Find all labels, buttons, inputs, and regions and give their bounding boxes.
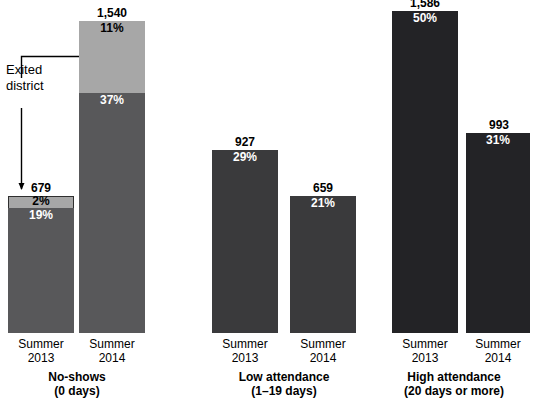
group-caption-line-1: Low attendance bbox=[195, 370, 373, 384]
bar-segment-label: 29% bbox=[212, 151, 278, 164]
axis-tick-noshows-2014: Summer 2014 bbox=[75, 337, 149, 365]
bar-segment-enrolled[interactable]: 37% bbox=[79, 93, 145, 333]
group-caption-line-1: No-shows bbox=[0, 370, 154, 384]
bar-segment-enrolled[interactable]: 19% bbox=[8, 208, 74, 333]
bar-segment-label: 37% bbox=[79, 94, 145, 107]
axis-tick-low-attendance-2013: Summer 2013 bbox=[208, 337, 282, 365]
tick-line-1: Summer bbox=[208, 337, 282, 351]
tick-line-2: 2014 bbox=[75, 351, 149, 365]
bar-segment-enrolled[interactable]: 50% bbox=[392, 11, 458, 333]
tick-line-2: 2013 bbox=[208, 351, 282, 365]
axis-tick-high-attendance-2014: Summer 2014 bbox=[461, 337, 535, 365]
bar-low-attendance-summer-2014[interactable]: 21% bbox=[290, 196, 356, 333]
bar-segment-label: 21% bbox=[290, 197, 356, 210]
tick-line-2: 2013 bbox=[4, 351, 78, 365]
bar-noshows-summer-2014[interactable]: 11% 37% bbox=[79, 21, 145, 333]
tick-line-1: Summer bbox=[388, 337, 462, 351]
tick-line-1: Summer bbox=[286, 337, 360, 351]
bar-segment-exited[interactable]: 11% bbox=[79, 21, 145, 93]
annotation-line-2: district bbox=[6, 78, 76, 94]
bar-segment-label: 31% bbox=[466, 134, 530, 147]
bar-segment-enrolled[interactable]: 29% bbox=[212, 150, 278, 333]
bar-low-attendance-summer-2013[interactable]: 29% bbox=[212, 150, 278, 333]
bar-high-attendance-summer-2014[interactable]: 31% bbox=[466, 133, 530, 333]
bar-segment-label: 11% bbox=[79, 22, 145, 35]
bar-total-label: 659 bbox=[290, 182, 356, 195]
bar-segment-exited[interactable]: 2% bbox=[8, 196, 74, 208]
bar-high-attendance-summer-2013[interactable]: 50% bbox=[392, 11, 458, 333]
tick-line-1: Summer bbox=[75, 337, 149, 351]
bar-segment-label: 19% bbox=[8, 209, 74, 222]
group-caption-line-2: (20 days or more) bbox=[372, 384, 536, 398]
bar-segment-enrolled[interactable]: 31% bbox=[466, 133, 530, 333]
group-caption-low-attendance: Low attendance (1–19 days) bbox=[195, 370, 373, 398]
group-caption-line-2: (0 days) bbox=[0, 384, 154, 398]
group-caption-no-shows: No-shows (0 days) bbox=[0, 370, 154, 398]
group-caption-line-1: High attendance bbox=[372, 370, 536, 384]
bar-total-label: 927 bbox=[212, 136, 278, 149]
bar-segment-label: 50% bbox=[392, 12, 458, 25]
tick-line-2: 2013 bbox=[388, 351, 462, 365]
bar-noshows-summer-2013[interactable]: 2% 19% bbox=[8, 196, 74, 333]
bar-segment-enrolled[interactable]: 21% bbox=[290, 196, 356, 333]
bar-total-label: 993 bbox=[466, 119, 532, 132]
group-caption-line-2: (1–19 days) bbox=[195, 384, 373, 398]
axis-tick-low-attendance-2014: Summer 2014 bbox=[286, 337, 360, 365]
tick-line-1: Summer bbox=[461, 337, 535, 351]
bar-segment-label: 2% bbox=[9, 195, 73, 208]
tick-line-1: Summer bbox=[4, 337, 78, 351]
axis-tick-noshows-2013: Summer 2013 bbox=[4, 337, 78, 365]
group-caption-high-attendance: High attendance (20 days or more) bbox=[372, 370, 536, 398]
exited-district-annotation: Exited district bbox=[6, 62, 76, 94]
tick-line-2: 2014 bbox=[461, 351, 535, 365]
bar-total-label: 1,586 bbox=[392, 0, 458, 10]
annotation-line-1: Exited bbox=[6, 62, 76, 78]
bar-total-label: 1,540 bbox=[79, 7, 145, 20]
axis-tick-high-attendance-2013: Summer 2013 bbox=[388, 337, 462, 365]
tick-line-2: 2014 bbox=[286, 351, 360, 365]
